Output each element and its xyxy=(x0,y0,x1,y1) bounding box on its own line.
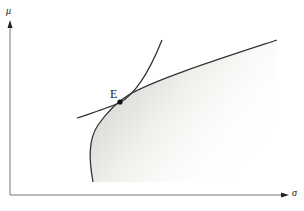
y-axis-arrow-icon xyxy=(8,20,13,28)
x-axis-arrow-icon xyxy=(281,193,289,198)
point-e-label: E xyxy=(110,87,117,102)
feasible-region xyxy=(90,40,277,182)
mean-variance-diagram xyxy=(0,0,304,211)
x-axis-label: σ xyxy=(292,187,297,198)
y-axis-label: μ xyxy=(6,5,11,16)
tangency-point-e xyxy=(117,99,122,104)
